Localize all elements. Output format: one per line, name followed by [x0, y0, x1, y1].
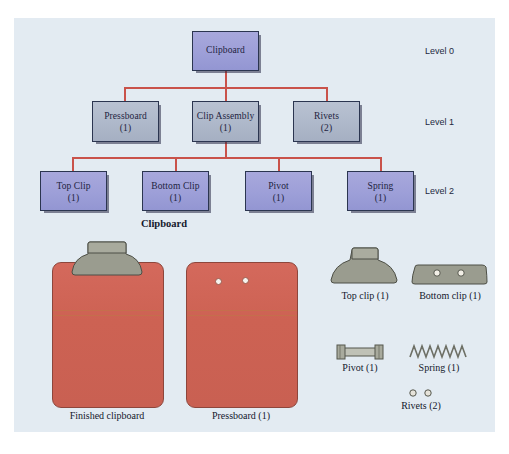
tree-node-qty: (2): [294, 123, 359, 135]
connector-to-pivot: [278, 157, 280, 171]
caption-pivot: Pivot (1): [325, 362, 395, 373]
level-label-2: Level 2: [425, 186, 454, 196]
connector-to-pressboard: [124, 87, 126, 101]
tree-node-pressboard[interactable]: Pressboard (1): [92, 101, 159, 142]
bom-tree: Clipboard Pressboard (1) Clip Assembly (…: [14, 18, 495, 218]
tree-node-top-clip[interactable]: Top Clip (1): [40, 171, 107, 211]
figure-page: Clipboard Pressboard (1) Clip Assembly (…: [0, 0, 509, 454]
tree-node-label: Clip Assembly: [197, 111, 255, 121]
tree-node-label: Bottom Clip: [151, 181, 199, 191]
caption-spring: Spring (1): [403, 362, 475, 373]
finished-clipboard-clip-icon: [70, 241, 144, 287]
tree-node-bottom-clip[interactable]: Bottom Clip (1): [142, 171, 209, 211]
pressboard-hole-left: [215, 278, 222, 285]
board-seam: [53, 310, 163, 311]
level-label-0: Level 0: [425, 46, 454, 56]
connector-clipboard-down: [225, 71, 227, 88]
connector-clip-assembly-down: [225, 142, 227, 158]
top-clip-icon: [330, 246, 400, 288]
tree-node-qty: (1): [41, 193, 106, 205]
tree-node-clip-assembly[interactable]: Clip Assembly (1): [192, 101, 259, 142]
tree-node-qty: (1): [246, 193, 311, 205]
tree-node-label: Pivot: [268, 181, 289, 191]
board-seam: [187, 315, 297, 316]
connector-to-rivets: [326, 87, 328, 101]
tree-node-qty: (1): [193, 123, 258, 135]
rivets-icon: [406, 387, 436, 399]
tree-node-qty: (1): [143, 193, 208, 205]
tree-node-label: Rivets: [314, 111, 339, 121]
caption-pressboard: Pressboard (1): [181, 410, 301, 421]
caption-rivets: Rivets (2): [385, 400, 457, 411]
connector-level2-bus: [72, 157, 381, 159]
pivot-icon: [335, 344, 385, 360]
board-seam: [187, 310, 297, 311]
board-seam: [53, 315, 163, 316]
spring-icon: [408, 344, 470, 360]
tree-node-qty: (1): [348, 193, 413, 205]
figure-panel: Clipboard Pressboard (1) Clip Assembly (…: [14, 18, 495, 432]
pressboard-board: [186, 262, 298, 408]
tree-node-pivot[interactable]: Pivot (1): [245, 171, 312, 211]
bottom-clip-icon: [411, 264, 489, 286]
connector-to-clip-assembly: [225, 87, 227, 101]
tree-node-label: Clipboard: [206, 45, 245, 55]
tree-node-spring[interactable]: Spring (1): [347, 171, 414, 211]
connector-to-bottom-clip: [175, 157, 177, 171]
tree-node-qty: (1): [93, 123, 158, 135]
tree-node-clipboard[interactable]: Clipboard: [192, 31, 259, 71]
caption-bottom-clip: Bottom clip (1): [403, 290, 497, 301]
tree-node-rivets[interactable]: Rivets (2): [293, 101, 360, 142]
connector-to-spring: [380, 157, 382, 171]
tree-node-label: Pressboard: [104, 111, 147, 121]
illustration-heading: Clipboard: [14, 218, 314, 229]
level-label-1: Level 1: [425, 117, 454, 127]
tree-node-label: Top Clip: [56, 181, 90, 191]
illustration-area: Clipboard Finished clipboard Pressboard …: [14, 214, 495, 432]
tree-node-label: Spring: [368, 181, 394, 191]
caption-finished-clipboard: Finished clipboard: [47, 410, 167, 421]
connector-to-top-clip: [72, 157, 74, 171]
pressboard-hole-right: [242, 277, 249, 284]
caption-top-clip: Top clip (1): [325, 290, 405, 301]
